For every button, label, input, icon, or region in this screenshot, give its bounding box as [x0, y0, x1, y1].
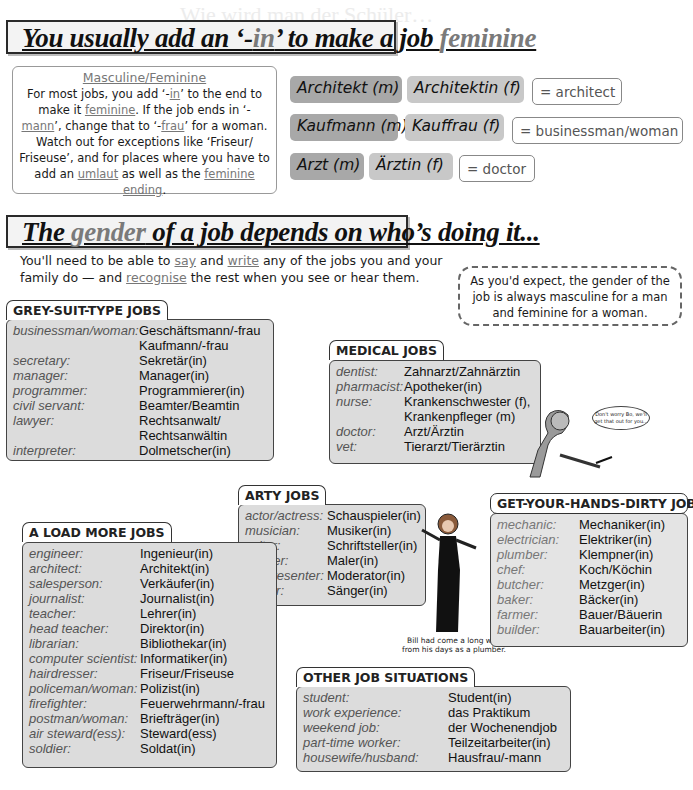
job-row: work experience:das Praktikum [303, 705, 564, 720]
german-term: Architekt(in) [140, 561, 209, 576]
job-row: Krankenpfleger (m) [336, 409, 534, 424]
job-row: plumber:Klempner(in) [497, 547, 681, 562]
english-term: interpreter: [13, 443, 139, 458]
job-row: weekend job:der Wochenendjob [303, 720, 564, 735]
job-row: electrician:Elektriker(in) [497, 532, 681, 547]
english-term: programmer: [13, 383, 139, 398]
example-masculine-arzt: Arzt (m) [290, 153, 364, 180]
example-masculine-kaufmann: Kaufmann (m) [290, 114, 398, 141]
german-term: Manager(in) [139, 368, 209, 383]
english-term: farmer: [497, 607, 579, 622]
german-term: Maler(in) [327, 553, 378, 568]
english-term: butcher: [497, 577, 579, 592]
german-term: Programmierer(in) [139, 383, 244, 398]
german-term: Bäcker(in) [579, 592, 638, 607]
group-panel: dentist:Zahnarzt/Zahnärztin pharmacist:A… [329, 360, 541, 464]
example-translation-architect: = architect [532, 78, 622, 105]
german-term: Feuerwehrmann/-frau [140, 696, 265, 711]
job-row: engineer:Ingenieur(in) [29, 546, 270, 561]
english-term: architect: [29, 561, 140, 576]
example-masculine-architekt: Architekt (m) [290, 76, 402, 103]
english-term: computer scientist: [29, 651, 140, 666]
singer-illustration [420, 510, 480, 635]
german-term: Bibliothekar(in) [140, 636, 227, 651]
group-panel: businessman/woman:Geschäftsmann/-frau Ka… [6, 319, 274, 461]
job-row: head teacher:Direktor(in) [29, 621, 270, 636]
german-term: Arzt/Ärztin [404, 424, 464, 439]
job-row: chef:Koch/Köchin [497, 562, 681, 577]
example-translation-doctor: = doctor [459, 155, 535, 182]
group-title: GREY-SUIT-TYPE JOBS [6, 300, 168, 320]
english-term: musician: [245, 523, 327, 538]
english-term: vet: [336, 439, 404, 454]
english-term: dentist: [336, 364, 404, 379]
english-term: pharmacist: [336, 379, 404, 394]
group-title: A LOAD MORE JOBS [22, 522, 172, 542]
job-row: farmer:Bauer/Bäuerin [497, 607, 681, 622]
german-term: Soldat(in) [140, 741, 196, 756]
english-term: work experience: [303, 705, 448, 720]
english-term: actor/actress: [245, 508, 327, 523]
job-row: hairdresser:Friseur/Friseuse [29, 666, 270, 681]
group-panel: engineer:Ingenieur(in) architect:Archite… [22, 542, 277, 768]
job-row: student:Student(in) [303, 690, 564, 705]
german-term: Bauarbeiter(in) [579, 622, 665, 637]
job-row: architect:Architekt(in) [29, 561, 270, 576]
english-term: soldier: [29, 741, 140, 756]
german-term: Beamter/Beamtin [139, 398, 239, 413]
job-row: baker:Bäcker(in) [497, 592, 681, 607]
job-row: civil servant:Beamter/Beamtin [13, 398, 267, 413]
english-term: postman/woman: [29, 711, 140, 726]
job-row: dentist:Zahnarzt/Zahnärztin [336, 364, 534, 379]
german-term: Teilzeitarbeiter(in) [448, 735, 551, 750]
job-row: butcher:Metzger(in) [497, 577, 681, 592]
masculine-feminine-infobox: Masculine/Feminine For most jobs, you ad… [12, 66, 277, 194]
german-term: Sekretär(in) [139, 353, 207, 368]
german-term: Klempner(in) [579, 547, 653, 562]
german-term: Polizist(in) [140, 681, 200, 696]
english-term: teacher: [29, 606, 140, 621]
section2-title-banner: The gender of a job depends on who’s doi… [6, 215, 408, 248]
job-row: nurse:Krankenschwester (f), [336, 394, 534, 409]
english-term: baker: [497, 592, 579, 607]
german-term: Geschäftsmann/-frau [139, 323, 260, 338]
german-term: Steward(ess) [140, 726, 217, 741]
german-term: Direktor(in) [140, 621, 204, 636]
group-title: GET-YOUR-HANDS-DIRTY JOBS [490, 493, 688, 514]
english-term: firefighter: [29, 696, 140, 711]
english-term: plumber: [497, 547, 579, 562]
german-term: Moderator(in) [327, 568, 405, 583]
english-term: electrician: [497, 532, 579, 547]
job-row: musician:Musiker(in) [245, 523, 419, 538]
english-term: head teacher: [29, 621, 140, 636]
job-row: programmer:Programmierer(in) [13, 383, 267, 398]
section1-title-banner: You usually add an ‘-in’ to make a job f… [6, 20, 396, 54]
job-row: pharmacist:Apotheker(in) [336, 379, 534, 394]
section2-title: The gender of a job depends on who’s doi… [22, 217, 540, 247]
german-term: Kaufmann/-frau [139, 338, 229, 353]
english-term: builder: [497, 622, 579, 637]
german-term: Krankenpfleger (m) [404, 409, 515, 424]
german-term: Krankenschwester (f), [404, 394, 530, 409]
english-term: air steward(ess): [29, 726, 140, 741]
job-row: teacher:Lehrer(in) [29, 606, 270, 621]
english-term: policeman/woman: [29, 681, 140, 696]
german-term: Metzger(in) [579, 577, 645, 592]
job-row: interpreter:Dolmetscher(in) [13, 443, 267, 458]
german-term: Zahnarzt/Zahnärztin [404, 364, 520, 379]
english-term: student: [303, 690, 448, 705]
group-title: MEDICAL JOBS [329, 340, 444, 360]
job-row: soldier:Soldat(in) [29, 741, 270, 756]
group-panel: student:Student(in) work experience:das … [296, 686, 571, 772]
job-row: postman/woman:Briefträger(in) [29, 711, 270, 726]
german-term: Koch/Köchin [579, 562, 652, 577]
gender-callout: As you'd expect, the gender of the job i… [458, 266, 682, 326]
english-term [13, 428, 139, 443]
german-term: Schriftsteller(in) [327, 538, 417, 553]
group-panel: mechanic:Mechaniker(in) electrician:Elek… [490, 513, 688, 647]
german-term: Lehrer(in) [140, 606, 196, 621]
infobox-title: Masculine/Feminine [19, 70, 270, 86]
job-row: builder:Bauarbeiter(in) [497, 622, 681, 637]
english-term: housewife/husband: [303, 750, 448, 765]
german-term: Schauspieler(in) [327, 508, 421, 523]
